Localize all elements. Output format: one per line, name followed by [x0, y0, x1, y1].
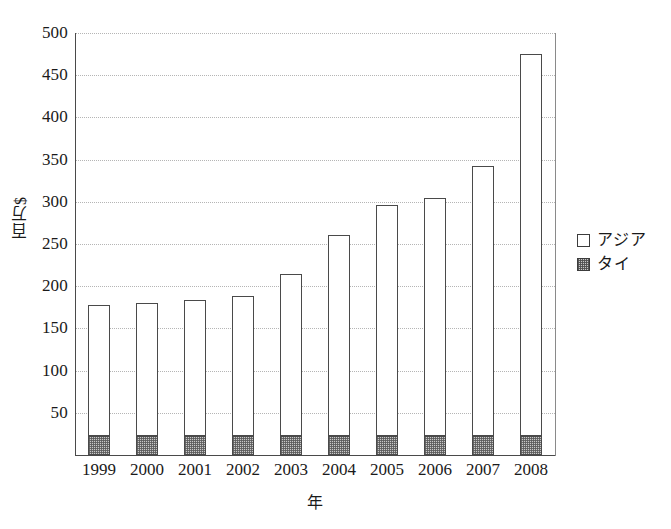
y-tick-label-150: 150	[6, 319, 68, 336]
bar-segment-タイ-2002[interactable]	[232, 436, 254, 455]
x-axis-tick-labels: 1999200020012002200320042005200620072008	[75, 460, 556, 486]
y-tick-label-50: 50	[6, 404, 68, 421]
y-tick-label-200: 200	[6, 277, 68, 294]
y-tick-label-300: 300	[6, 193, 68, 210]
x-tick-label-2007: 2007	[457, 460, 509, 480]
plot-right-border	[555, 33, 556, 456]
y-tick-label-500: 500	[6, 24, 68, 41]
bar-2006[interactable]	[424, 33, 446, 455]
bar-segment-タイ-2004[interactable]	[328, 436, 350, 455]
y-tick-label-450: 450	[6, 66, 68, 83]
x-tick-label-2005: 2005	[361, 460, 413, 480]
x-axis-line	[75, 455, 556, 456]
x-tick-label-1999: 1999	[73, 460, 125, 480]
plot-area	[75, 33, 555, 455]
legend-item-アジア[interactable]: アジア	[577, 228, 669, 252]
bar-segment-タイ-2006[interactable]	[424, 436, 446, 455]
bar-2004[interactable]	[328, 33, 350, 455]
bar-2002[interactable]	[232, 33, 254, 455]
bar-segment-アジア-2000[interactable]	[136, 303, 158, 436]
bar-segment-アジア-2002[interactable]	[232, 296, 254, 436]
chart-legend: アジアタイ	[577, 228, 669, 276]
bar-segment-タイ-2001[interactable]	[184, 436, 206, 455]
x-tick-label-2006: 2006	[409, 460, 461, 480]
bar-segment-アジア-1999[interactable]	[88, 305, 110, 437]
empty-square-icon	[577, 234, 590, 247]
bar-2003[interactable]	[280, 33, 302, 455]
bar-segment-アジア-2001[interactable]	[184, 300, 206, 437]
y-tick-label-250: 250	[6, 235, 68, 252]
bar-2005[interactable]	[376, 33, 398, 455]
bar-segment-タイ-2008[interactable]	[520, 436, 542, 455]
bar-2000[interactable]	[136, 33, 158, 455]
bar-2007[interactable]	[472, 33, 494, 455]
x-tick-label-2004: 2004	[313, 460, 365, 480]
bar-segment-アジア-2008[interactable]	[520, 54, 542, 435]
y-tick-label-400: 400	[6, 108, 68, 125]
bar-1999[interactable]	[88, 33, 110, 455]
legend-label: アジア	[597, 231, 647, 249]
bar-segment-タイ-1999[interactable]	[88, 436, 110, 455]
x-axis-title: 年	[75, 489, 556, 513]
bar-segment-タイ-2007[interactable]	[472, 436, 494, 455]
bar-segment-アジア-2003[interactable]	[280, 274, 302, 436]
bar-segment-アジア-2005[interactable]	[376, 205, 398, 436]
x-tick-label-2002: 2002	[217, 460, 269, 480]
bar-segment-タイ-2005[interactable]	[376, 436, 398, 455]
bar-segment-タイ-2000[interactable]	[136, 436, 158, 455]
x-tick-label-2003: 2003	[265, 460, 317, 480]
bar-chart: 百万$ 50100150200250300350400450500 199920…	[0, 0, 671, 529]
bar-2001[interactable]	[184, 33, 206, 455]
y-axis-tick-labels: 50100150200250300350400450500	[0, 33, 68, 455]
bar-segment-タイ-2003[interactable]	[280, 436, 302, 455]
hatched-square-icon	[577, 258, 590, 271]
x-tick-label-2000: 2000	[121, 460, 173, 480]
y-tick-label-350: 350	[6, 151, 68, 168]
y-axis-line	[75, 33, 76, 456]
legend-item-タイ[interactable]: タイ	[577, 252, 669, 276]
x-tick-label-2001: 2001	[169, 460, 221, 480]
y-tick-label-100: 100	[6, 362, 68, 379]
bar-segment-アジア-2006[interactable]	[424, 198, 446, 437]
bar-segment-アジア-2007[interactable]	[472, 166, 494, 437]
legend-label: タイ	[597, 255, 631, 273]
bar-2008[interactable]	[520, 33, 542, 455]
x-tick-label-2008: 2008	[505, 460, 557, 480]
bar-segment-アジア-2004[interactable]	[328, 235, 350, 437]
